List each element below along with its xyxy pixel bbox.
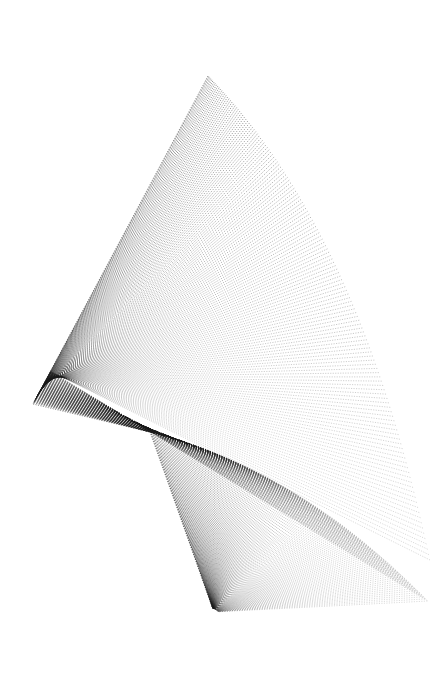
generative-line-art-svg — [0, 0, 444, 689]
artwork-canvas — [0, 0, 444, 689]
